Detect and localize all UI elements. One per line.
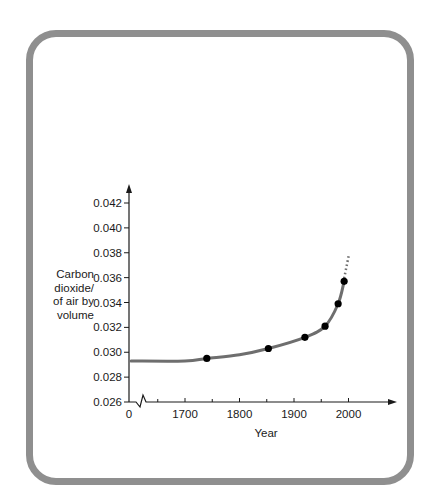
x-tick-label: 2000	[336, 408, 362, 420]
y-tick-label: 0.040	[93, 222, 122, 234]
data-point	[335, 300, 342, 307]
projection-dotted-line	[344, 254, 349, 278]
x-tick-label: 0	[126, 408, 132, 420]
data-point	[321, 323, 328, 330]
x-tick-label: 1800	[227, 408, 253, 420]
co2-chart: 0.0260.0280.0300.0320.0340.0360.0380.040…	[0, 0, 440, 502]
y-axis: 0.0260.0280.0300.0320.0340.0360.0380.040…	[93, 184, 132, 408]
data-point	[341, 278, 348, 285]
y-tick-label: 0.034	[93, 297, 122, 309]
x-axis-arrow-icon	[388, 399, 397, 405]
co2-curve	[131, 281, 344, 361]
x-axis: 01700180019002000 Year	[126, 395, 397, 439]
y-tick-label: 0.038	[93, 247, 122, 259]
y-tick-label: 0.028	[93, 371, 122, 383]
y-tick-label: 0.042	[93, 197, 122, 209]
y-tick-label: 0.032	[93, 321, 122, 333]
y-tick-label: 0.026	[93, 396, 122, 408]
x-tick-label: 1900	[281, 408, 307, 420]
data-point	[203, 355, 210, 362]
data-point	[265, 345, 272, 352]
x-tick-label: 1700	[172, 408, 198, 420]
y-tick-label: 0.030	[93, 346, 122, 358]
y-tick-label: 0.036	[93, 272, 122, 284]
data-point	[301, 334, 308, 341]
y-axis-arrow-icon	[126, 184, 132, 193]
axis-break-icon	[129, 395, 390, 407]
data-points	[203, 278, 348, 362]
x-axis-label: Year	[254, 427, 277, 439]
